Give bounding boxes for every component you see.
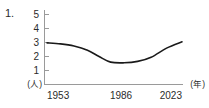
y-tick-label-4: 4 [33,23,39,34]
y-tick-label-1: 1 [33,65,39,76]
data-series-line [47,42,182,63]
y-tick-label-5: 5 [33,9,39,20]
x-tick-label-end: 2023 [160,90,183,101]
x-tick-label-start: 1953 [47,90,70,101]
x-axis-unit-label: (年) [190,79,205,89]
line-chart-plot: 5 4 3 2 1 (人) (年) 1953 1986 2023 [0,0,209,108]
y-axis-unit-label: (人) [27,79,42,89]
chart-figure: 1. 5 4 3 2 1 (人) (年) 1953 1986 2023 [0,0,209,108]
y-tick-label-2: 2 [33,51,39,62]
x-tick-label-mid: 1986 [110,90,133,101]
y-tick-label-3: 3 [33,37,39,48]
